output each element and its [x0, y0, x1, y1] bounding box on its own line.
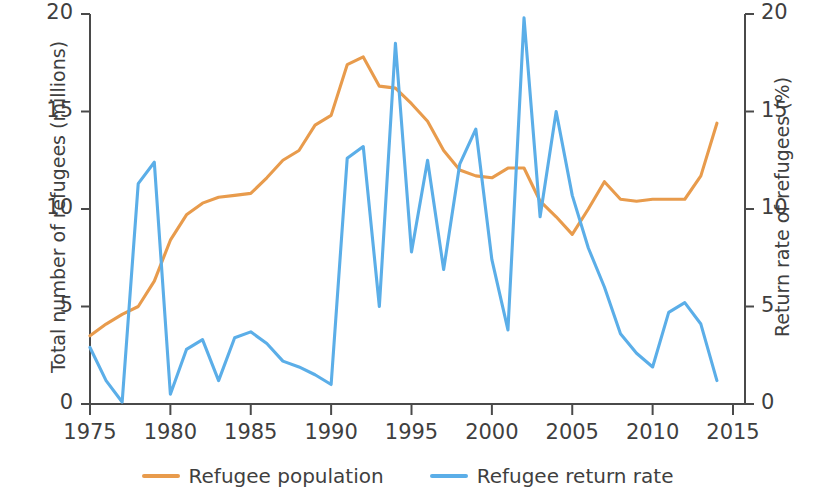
y-axis-right-ticks	[745, 14, 754, 404]
y-axis-left-tick-0: 0	[21, 390, 73, 414]
y-axis-left-tick-15: 15	[21, 98, 73, 122]
y-axis-right-tick-15: 15	[761, 98, 813, 122]
y-axis-right-tick-10: 10	[761, 195, 813, 219]
y-axis-right-tick-0: 0	[761, 390, 813, 414]
y-axis-right-tick-5: 5	[761, 293, 813, 317]
y-axis-left-tick-10: 10	[21, 195, 73, 219]
legend-entry-refugee-population: Refugee population	[142, 464, 384, 488]
x-axis-tick-2000: 2000	[452, 420, 532, 444]
legend-entry-refugee-return-rate: Refugee return rate	[430, 464, 674, 488]
chart-legend: Refugee population Refugee return rate	[0, 464, 815, 488]
refugee-chart-figure: Total number of refugees (millions) Retu…	[0, 0, 815, 498]
x-axis-tick-2015: 2015	[693, 420, 773, 444]
x-axis-tick-2005: 2005	[532, 420, 612, 444]
x-axis-tick-1975: 1975	[50, 420, 130, 444]
x-axis-tick-1985: 1985	[211, 420, 291, 444]
x-axis-tick-1980: 1980	[130, 420, 210, 444]
legend-label-refugee-return-rate: Refugee return rate	[477, 464, 674, 488]
y-axis-right-tick-20: 20	[761, 0, 813, 24]
y-axis-left-ticks	[81, 14, 90, 404]
legend-label-refugee-population: Refugee population	[189, 464, 384, 488]
x-axis-ticks	[90, 404, 733, 415]
x-axis-tick-1990: 1990	[291, 420, 371, 444]
x-axis-tick-2010: 2010	[613, 420, 693, 444]
series-line-refugee-population	[90, 57, 717, 336]
y-axis-left-tick-20: 20	[21, 0, 73, 24]
data-series-layer	[90, 18, 717, 402]
y-axis-left-tick-5: 5	[21, 293, 73, 317]
x-axis-tick-1995: 1995	[372, 420, 452, 444]
legend-swatch-refugee-return-rate	[430, 474, 468, 478]
series-line-refugee-return-rate	[90, 18, 717, 402]
legend-swatch-refugee-population	[142, 474, 180, 478]
